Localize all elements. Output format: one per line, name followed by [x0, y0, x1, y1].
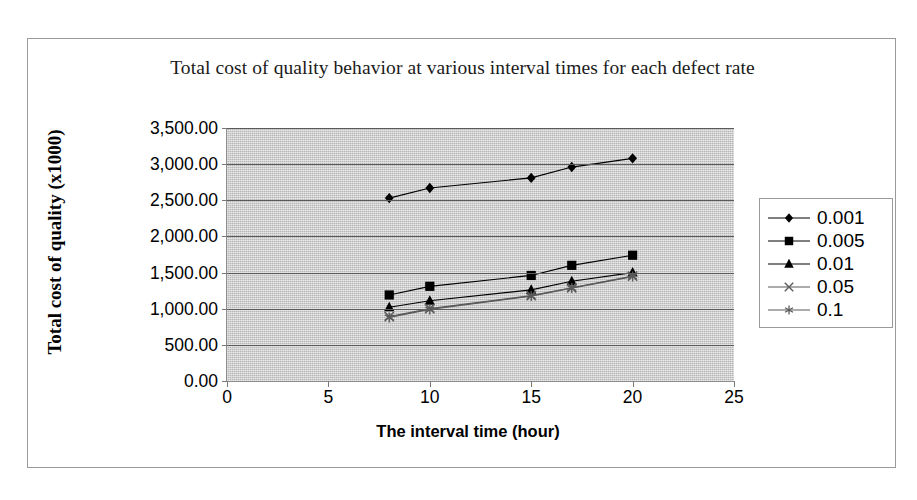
gridline — [227, 200, 734, 201]
data-point-marker — [385, 290, 394, 299]
data-point-marker — [425, 282, 434, 291]
y-axis-tick — [222, 236, 227, 237]
y-axis-tick-label: 2,500.00 — [150, 190, 218, 211]
legend-label: 0.001 — [817, 208, 865, 227]
chart-figure-frame: Total cost of quality behavior at variou… — [27, 38, 896, 468]
y-axis-tick-labels: 0.00500.001,000.001,500.002,000.002,500.… — [66, 128, 218, 381]
legend-item-0-01[interactable]: 0.01 — [760, 252, 892, 275]
data-point-marker — [628, 251, 637, 260]
data-point-marker — [527, 173, 536, 183]
x-axis-tick — [430, 381, 431, 387]
legend-label: 0.1 — [817, 300, 843, 319]
gridline — [227, 273, 734, 274]
triangle-marker-icon — [766, 256, 812, 272]
x-axis-tick — [227, 381, 228, 387]
y-axis-tick-label: 2,000.00 — [150, 226, 218, 247]
y-axis-tick — [222, 128, 227, 129]
data-series — [385, 272, 638, 322]
legend-label: 0.005 — [817, 231, 865, 250]
x-axis-tick-label: 20 — [623, 387, 642, 408]
x-axis-tick-label: 10 — [420, 387, 439, 408]
x-axis-tick — [531, 381, 532, 387]
y-axis-tick — [222, 273, 227, 274]
y-axis-tick-label: 1,000.00 — [150, 298, 218, 319]
x-axis-tick — [734, 381, 735, 387]
x-axis-tick-label: 15 — [521, 387, 540, 408]
data-point-marker — [385, 193, 394, 203]
x-axis-tick — [633, 381, 634, 387]
gridline — [227, 128, 734, 129]
legend-item-0-1[interactable]: 0.1 — [760, 298, 892, 321]
cross-marker-icon — [766, 279, 812, 295]
data-series — [385, 153, 637, 203]
x-axis-title: The interval time (hour) — [208, 422, 728, 441]
plot-area — [227, 128, 734, 381]
chart-title: Total cost of quality behavior at variou… — [28, 57, 897, 79]
y-axis-tick-label: 3,000.00 — [150, 154, 218, 175]
gridline — [227, 236, 734, 237]
legend-item-0-005[interactable]: 0.005 — [760, 229, 892, 252]
x-axis-tick-label: 5 — [324, 387, 334, 408]
data-point-marker — [628, 153, 637, 163]
y-axis-tick-label: 500.00 — [164, 334, 218, 355]
gridline — [227, 309, 734, 310]
legend-label: 0.01 — [817, 254, 854, 273]
legend-item-0-001[interactable]: 0.001 — [760, 206, 892, 229]
square-marker-icon — [766, 233, 812, 249]
y-axis-tick — [222, 309, 227, 310]
x-axis-tick-labels: 0510152025 — [227, 387, 734, 411]
star-marker-icon — [766, 302, 812, 318]
y-axis-tick — [222, 345, 227, 346]
data-point-marker — [425, 183, 434, 193]
y-axis-tick — [222, 200, 227, 201]
gridline — [227, 164, 734, 165]
data-series — [385, 272, 637, 323]
x-axis-tick-label: 25 — [724, 387, 743, 408]
y-axis-title: Total cost of quality (x1000) — [44, 117, 66, 367]
diamond-marker-icon — [766, 210, 812, 226]
x-axis-tick-label: 0 — [222, 387, 232, 408]
y-axis-tick-label: 0.00 — [184, 371, 218, 392]
data-point-marker — [567, 261, 576, 270]
data-series — [384, 267, 638, 311]
y-axis-tick-label: 3,500.00 — [150, 118, 218, 139]
y-axis-tick — [222, 164, 227, 165]
x-axis-line — [226, 381, 735, 382]
data-series-layer — [227, 128, 734, 381]
legend-label: 0.05 — [817, 277, 854, 296]
legend-item-0-05[interactable]: 0.05 — [760, 275, 892, 298]
chart-legend: 0.0010.0050.010.050.1 — [759, 198, 893, 328]
gridline — [227, 345, 734, 346]
x-axis-tick — [328, 381, 329, 387]
y-axis-tick-label: 1,500.00 — [150, 262, 218, 283]
